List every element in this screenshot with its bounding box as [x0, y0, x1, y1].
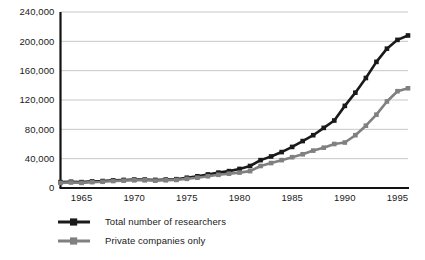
y-tick-label: 80,000: [25, 124, 55, 135]
data-point-marker: [111, 179, 116, 184]
data-point-marker: [343, 104, 348, 109]
data-point-marker: [206, 174, 211, 179]
data-point-marker: [364, 123, 369, 128]
y-tick-label: 160,000: [19, 65, 54, 76]
data-point-marker: [385, 99, 390, 104]
data-point-marker: [185, 177, 190, 182]
data-point-marker: [269, 154, 274, 159]
data-point-marker: [174, 178, 179, 183]
y-tick-label: 40,000: [25, 153, 55, 164]
data-point-marker: [300, 139, 305, 144]
x-tick-label: 1980: [229, 192, 251, 203]
data-point-marker: [332, 142, 337, 147]
data-point-marker: [100, 179, 105, 184]
data-point-marker: [290, 145, 295, 150]
data-point-marker: [237, 170, 242, 175]
data-point-marker: [343, 140, 348, 145]
data-point-marker: [269, 161, 274, 166]
data-point-marker: [300, 152, 305, 157]
x-tick-label: 1990: [334, 192, 356, 203]
y-tick-label: 240,000: [19, 6, 54, 17]
data-point-marker: [311, 148, 316, 153]
data-point-marker: [321, 126, 326, 131]
x-tick-label: 1975: [176, 192, 198, 203]
data-point-marker: [142, 178, 147, 183]
data-point-marker: [364, 76, 369, 81]
legend-swatch-marker: [70, 237, 77, 244]
x-tick-label: 1970: [123, 192, 145, 203]
data-point-marker: [195, 175, 200, 180]
legend-label: Total number of researchers: [105, 216, 226, 227]
data-point-marker: [374, 60, 379, 65]
data-point-marker: [258, 158, 263, 163]
data-point-marker: [121, 178, 126, 183]
data-point-marker: [79, 181, 84, 186]
data-point-marker: [258, 164, 263, 169]
data-point-marker: [353, 90, 358, 95]
data-point-marker: [290, 155, 295, 160]
x-tick-label: 1995: [387, 192, 409, 203]
chart-canvas: 040,00080,000120,000160,000200,000240,00…: [0, 0, 425, 260]
data-point-marker: [279, 150, 284, 155]
data-point-marker: [395, 38, 400, 43]
data-point-marker: [353, 133, 358, 138]
x-tick-label: 1965: [71, 192, 93, 203]
data-point-marker: [132, 178, 137, 183]
y-tick-label: 0: [49, 182, 54, 193]
researchers-line-chart: 040,00080,000120,000160,000200,000240,00…: [0, 0, 425, 260]
legend-swatch-marker: [70, 218, 77, 225]
data-point-marker: [227, 171, 232, 176]
legend-label: Private companies only: [105, 235, 206, 246]
data-point-marker: [248, 164, 253, 169]
data-point-marker: [248, 169, 253, 174]
data-point-marker: [395, 89, 400, 94]
data-point-marker: [164, 178, 169, 183]
data-point-marker: [69, 180, 74, 185]
data-point-marker: [311, 133, 316, 138]
data-point-marker: [321, 145, 326, 150]
y-tick-label: 200,000: [19, 36, 54, 47]
data-point-marker: [385, 46, 390, 51]
data-point-marker: [279, 158, 284, 163]
x-tick-label: 1985: [281, 192, 303, 203]
data-point-marker: [153, 178, 158, 183]
data-point-marker: [332, 118, 337, 123]
y-tick-label: 120,000: [19, 94, 54, 105]
data-point-marker: [58, 181, 63, 186]
data-point-marker: [216, 173, 221, 178]
data-point-marker: [406, 33, 411, 38]
data-point-marker: [406, 86, 411, 91]
data-point-marker: [374, 112, 379, 117]
data-point-marker: [90, 180, 95, 185]
